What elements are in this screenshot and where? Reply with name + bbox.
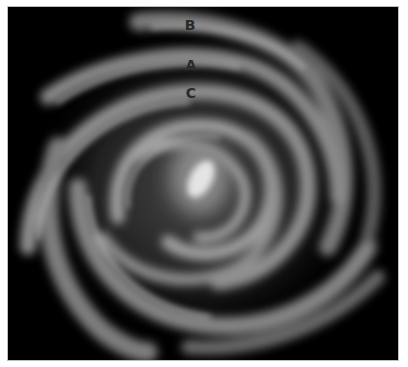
label-b: B bbox=[185, 18, 196, 32]
label-a: A bbox=[186, 58, 197, 72]
spiral-galaxy-graphic bbox=[8, 7, 398, 360]
label-c: C bbox=[186, 86, 196, 100]
galaxy-image bbox=[8, 7, 398, 360]
